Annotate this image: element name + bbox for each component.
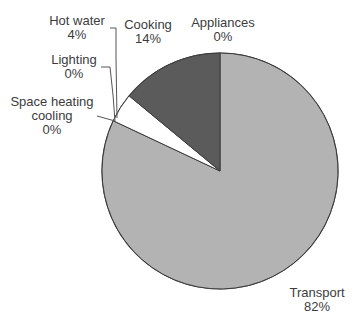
pie-chart [0,0,352,324]
label-space-heating-line1: Space heating [4,95,100,109]
leader-line-lighting [101,67,115,121]
pie-slices [102,53,338,289]
label-transport-name: Transport [284,286,350,300]
label-cooking-pct: 14% [120,32,176,46]
label-lighting-pct: 0% [46,67,102,81]
label-lighting-name: Lighting [46,53,102,67]
label-transport: Transport 82% [284,286,350,314]
label-appliances-name: Appliances [186,16,260,30]
label-hot-water-name: Hot water [44,14,110,28]
label-space-heating-pct: 0% [4,123,100,137]
label-lighting: Lighting 0% [46,53,102,81]
label-space-heating-line2: cooling [4,109,100,123]
label-transport-pct: 82% [284,300,350,314]
label-hot-water: Hot water 4% [44,14,110,42]
label-space-heating: Space heating cooling 0% [4,95,100,137]
label-appliances-pct: 0% [186,30,260,44]
label-cooking-name: Cooking [120,18,176,32]
label-cooking: Cooking 14% [120,18,176,46]
label-appliances: Appliances 0% [186,16,260,44]
label-hot-water-pct: 4% [44,28,110,42]
